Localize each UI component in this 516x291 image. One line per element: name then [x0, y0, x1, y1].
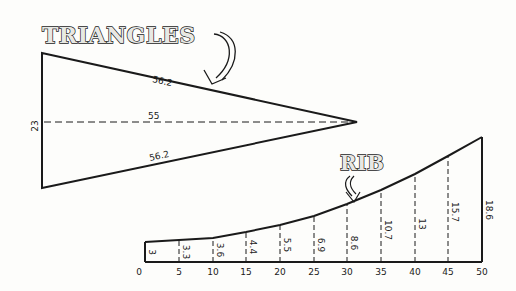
rib-height-label: 5.5 — [282, 238, 292, 252]
rib-height-label: 4.4 — [248, 240, 258, 255]
x-tick-label: 45 — [442, 267, 453, 277]
curved-arrow-icon — [346, 176, 360, 202]
rib-height-label: 18.6 — [484, 200, 494, 220]
rib-height-label: 10.7 — [383, 220, 393, 240]
triangle-centerline-label: 55 — [148, 111, 159, 121]
diagram-canvas: TRIANGLES 56.2 55 56.2 23 RIB — [0, 0, 516, 291]
rib-height-label: 3.3 — [181, 245, 191, 259]
rib-height-label: 15.7 — [450, 202, 460, 222]
rib-x-axis-labels: 0 5 10 15 20 25 30 35 40 45 50 — [136, 267, 488, 277]
diagram-svg: TRIANGLES 56.2 55 56.2 23 RIB — [0, 0, 516, 291]
x-tick-label: 25 — [308, 267, 319, 277]
rib-height-labels: 3 3.3 3.6 4.4 5.5 6.9 8.6 10.7 13 15.7 1… — [147, 200, 494, 259]
triangle-base-label: 23 — [30, 120, 40, 131]
rib-height-label: 3.6 — [215, 243, 225, 258]
x-tick-label: 50 — [476, 267, 488, 277]
triangle-top-side-label: 56.2 — [152, 74, 174, 88]
rib-height-label: 8.6 — [349, 236, 359, 251]
x-tick-label: 40 — [409, 267, 421, 277]
triangles-title: TRIANGLES — [42, 22, 196, 48]
rib-height-label: 13 — [417, 218, 427, 229]
x-tick-label: 30 — [341, 267, 353, 277]
rib-height-label: 6.9 — [316, 238, 326, 253]
x-tick-label: 5 — [176, 267, 182, 277]
x-tick-label: 20 — [274, 267, 286, 277]
triangle-shape — [42, 53, 357, 188]
x-tick-label: 15 — [240, 267, 251, 277]
x-tick-label: 0 — [136, 267, 142, 277]
curved-arrow-icon — [204, 32, 235, 84]
x-tick-label: 10 — [207, 267, 219, 277]
rib-height-label: 3 — [147, 249, 157, 255]
x-tick-label: 35 — [375, 267, 386, 277]
rib-title: RIB — [340, 151, 384, 175]
